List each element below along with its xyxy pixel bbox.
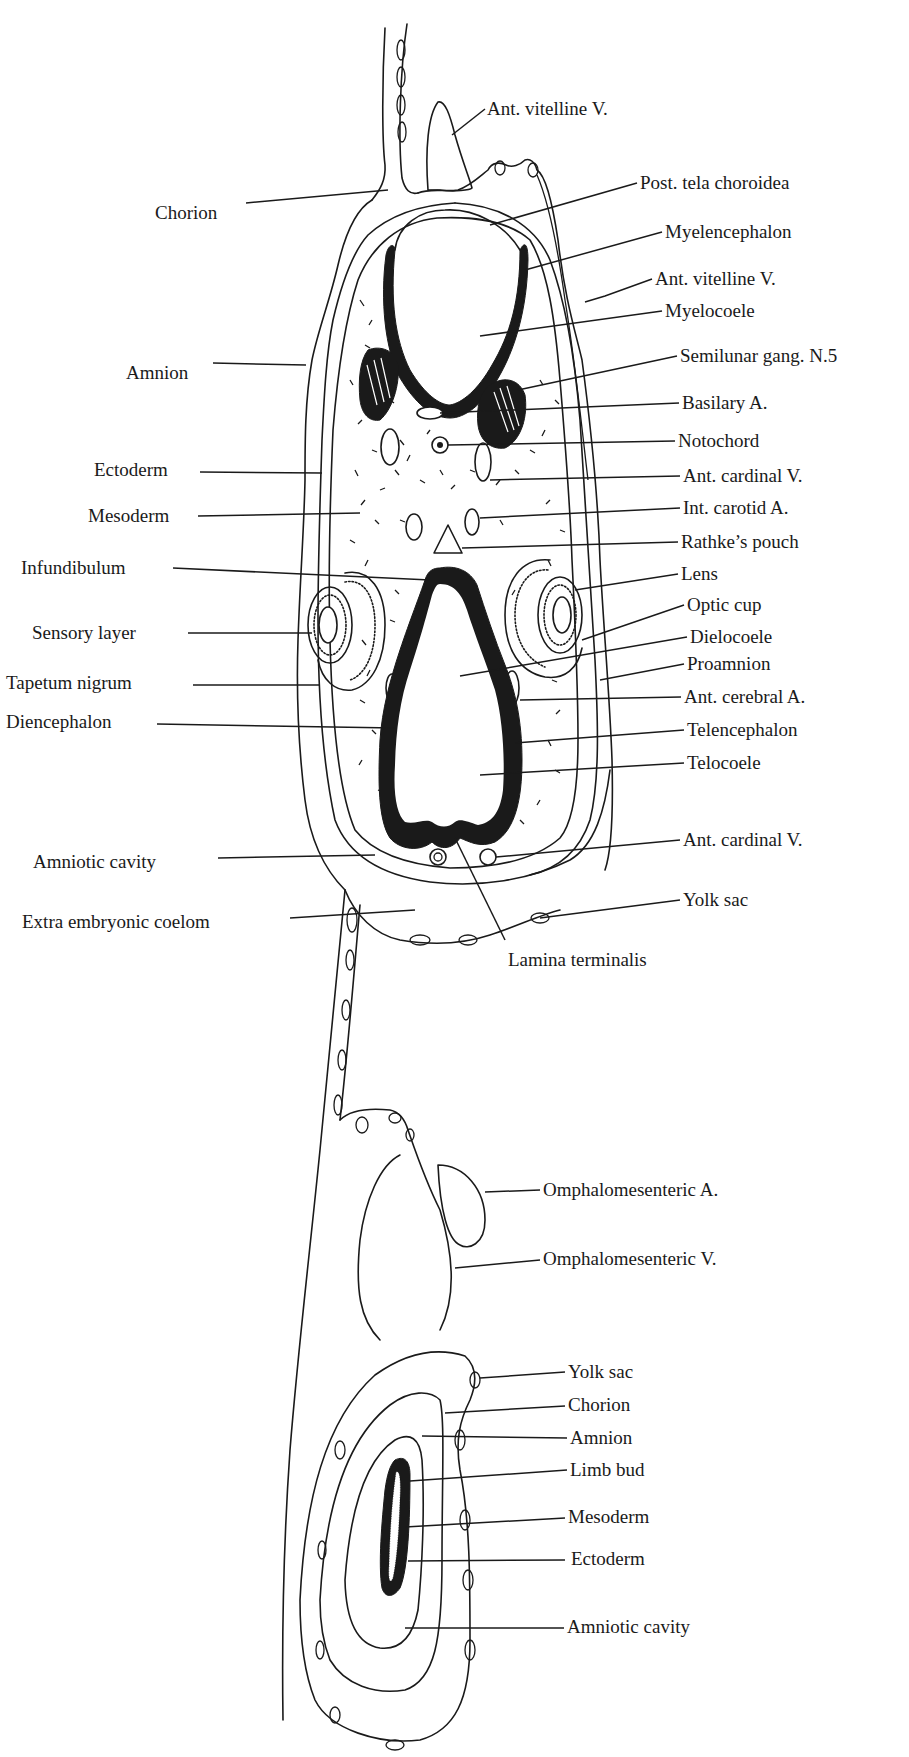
label-yolk-sac-2: Yolk sac bbox=[568, 1362, 633, 1382]
label-amnion-2: Amnion bbox=[570, 1428, 632, 1448]
label-ant-cardinal-v-1: Ant. cardinal V. bbox=[683, 466, 803, 486]
label-mesoderm-2: Mesoderm bbox=[568, 1507, 649, 1527]
label-chorion-2: Chorion bbox=[568, 1395, 630, 1415]
optic-cup-right bbox=[505, 560, 582, 678]
label-yolk-sac-1: Yolk sac bbox=[683, 890, 748, 910]
label-lens: Lens bbox=[681, 564, 718, 584]
label-limb-bud: Limb bud bbox=[570, 1460, 644, 1480]
label-proamnion: Proamnion bbox=[687, 654, 770, 674]
label-myelencephalon: Myelencephalon bbox=[665, 222, 792, 242]
label-tapetum-nigrum: Tapetum nigrum bbox=[6, 673, 132, 693]
label-optic-cup: Optic cup bbox=[687, 595, 761, 615]
omphalomesenteric-vessels bbox=[340, 1109, 485, 1340]
label-chorion: Chorion bbox=[155, 203, 217, 223]
label-ectoderm-2: Ectoderm bbox=[571, 1549, 645, 1569]
label-rathkes-pouch: Rathke’s pouch bbox=[681, 532, 799, 552]
label-basilary-a: Basilary A. bbox=[682, 393, 768, 413]
label-ant-cerebral-a: Ant. cerebral A. bbox=[684, 687, 805, 707]
label-omphalomesenteric-a: Omphalomesenteric A. bbox=[543, 1180, 718, 1200]
label-amniotic-cavity-1: Amniotic cavity bbox=[33, 852, 156, 872]
label-dielocoele: Dielocoele bbox=[690, 627, 772, 647]
embryo-section-diagram bbox=[0, 0, 909, 1757]
label-amniotic-cavity-2: Amniotic cavity bbox=[567, 1617, 690, 1637]
label-diencephalon: Diencephalon bbox=[6, 712, 112, 732]
limb-bud-section bbox=[300, 1352, 480, 1750]
label-ant-vitelline-v: Ant. vitelline V. bbox=[655, 269, 776, 289]
label-extra-embryonic-coelom: Extra embryonic coelom bbox=[22, 912, 210, 932]
label-myelocoele: Myelocoele bbox=[665, 301, 755, 321]
label-int-carotid-a: Int. carotid A. bbox=[683, 498, 789, 518]
label-omphalomesenteric-v: Omphalomesenteric V. bbox=[543, 1249, 716, 1269]
label-infundibulum: Infundibulum bbox=[21, 558, 126, 578]
yolk-sac-stalk bbox=[283, 890, 560, 1720]
label-mesoderm: Mesoderm bbox=[88, 506, 169, 526]
label-telocoele: Telocoele bbox=[687, 753, 761, 773]
label-ant-vitelline-v-top: Ant. vitelline V. bbox=[487, 99, 608, 119]
label-ectoderm: Ectoderm bbox=[94, 460, 168, 480]
label-amnion: Amnion bbox=[126, 363, 188, 383]
label-ant-cardinal-v-2: Ant. cardinal V. bbox=[683, 830, 803, 850]
label-notochord: Notochord bbox=[678, 431, 759, 451]
label-post-tela-choroidea: Post. tela choroidea bbox=[640, 173, 789, 193]
label-telencephalon: Telencephalon bbox=[687, 720, 798, 740]
label-semilunar-gang: Semilunar gang. N.5 bbox=[680, 346, 837, 366]
forebrain-shape bbox=[379, 567, 522, 865]
label-lamina-terminalis: Lamina terminalis bbox=[508, 950, 647, 970]
label-sensory-layer: Sensory layer bbox=[32, 623, 136, 643]
